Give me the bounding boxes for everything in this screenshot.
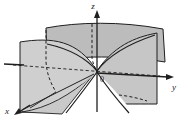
saddle-surface-figure: z y x 0 xyxy=(0,0,182,118)
z-axis-label: z xyxy=(90,1,95,11)
x-axis-label: x xyxy=(4,106,9,116)
y-axis-label: y xyxy=(171,82,176,92)
figure-container: z y x 0 xyxy=(0,0,182,118)
origin-label: 0 xyxy=(100,75,104,84)
